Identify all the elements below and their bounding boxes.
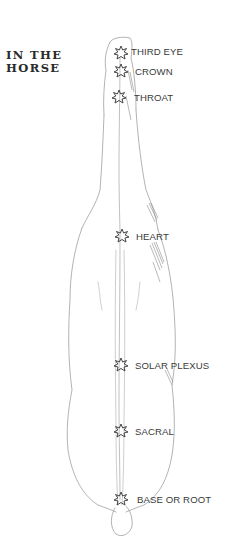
star-burst-icon-crown: [113, 63, 129, 79]
star-burst-icon-solar-plexus: [113, 357, 129, 373]
star-burst-icon-throat: [111, 89, 127, 105]
chakra-label-base-root: BASE OR ROOT: [137, 494, 211, 505]
chakra-label-sacral: SACRAL: [135, 426, 174, 437]
chakra-label-crown: CROWN: [135, 66, 173, 77]
chakra-label-solar-plexus: SOLAR PLEXUS: [135, 360, 209, 371]
horse-top-view-sketch: [0, 0, 231, 554]
chakra-label-heart: HEART: [136, 231, 169, 242]
star-burst-icon-heart: [114, 228, 130, 244]
star-burst-icon-sacral: [113, 423, 129, 439]
star-burst-icon-third-eye: [113, 45, 129, 61]
star-burst-icon-base-root: [113, 491, 129, 507]
chakra-label-third-eye: THIRD EYE: [131, 46, 183, 57]
chakra-label-throat: THROAT: [134, 92, 173, 103]
